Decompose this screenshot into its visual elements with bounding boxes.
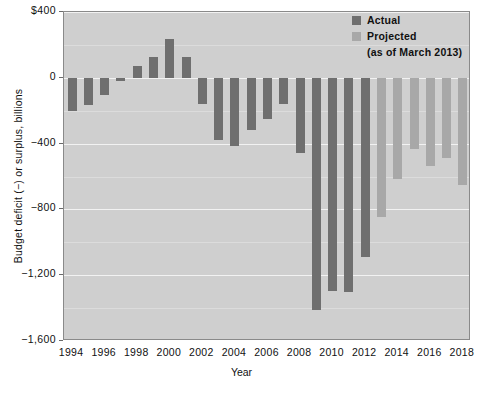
- y-tick-label-5: −1,600: [0, 333, 56, 345]
- x-tick-label-2018: 2018: [442, 346, 482, 358]
- y-tick-mark-1: [59, 77, 63, 78]
- y-tick-mark-5: [59, 340, 63, 341]
- legend-swatch-projected-icon: [352, 32, 361, 41]
- y-tick-label-3: −800: [0, 201, 56, 213]
- y-axis-title: Budget deficit (−) or surplus, billions: [12, 16, 24, 336]
- y-tick-mark-2: [59, 143, 63, 144]
- y-tick-label-4: −1,200: [0, 267, 56, 279]
- legend-note-projected-asof: (as of March 2013): [367, 46, 462, 58]
- legend-swatch-actual-icon: [352, 16, 361, 25]
- legend-entry-actual: Actual: [352, 14, 462, 26]
- legend-entry-projected: Projected: [352, 30, 462, 42]
- chart-legend: Actual Projected (as of March 2013): [352, 14, 462, 58]
- legend-label-actual: Actual: [367, 14, 400, 26]
- y-tick-mark-3: [59, 208, 63, 209]
- budget-deficit-chart: $4000−400−800−1,200−1,600 Budget deficit…: [0, 0, 483, 395]
- y-tick-mark-0: [59, 11, 63, 12]
- x-axis-title: Year: [0, 366, 483, 378]
- y-tick-label-0: $400: [0, 4, 56, 16]
- y-tick-label-2: −400: [0, 136, 56, 148]
- y-tick-mark-4: [59, 274, 63, 275]
- legend-label-projected: Projected: [367, 30, 417, 42]
- y-tick-label-1: 0: [0, 70, 56, 82]
- y-axis-tick-labels: $4000−400−800−1,200−1,600: [0, 0, 483, 395]
